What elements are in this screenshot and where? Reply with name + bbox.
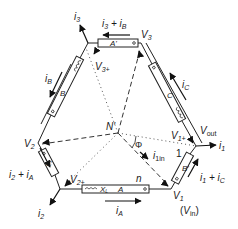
label-i1-plus-iC: i1 + iC (200, 172, 226, 184)
i3-arrow-icon (80, 25, 88, 43)
label-v1plus: V1+ (171, 130, 186, 142)
i1in-arrow-icon (140, 152, 148, 159)
label-vout: Vout (200, 125, 216, 137)
winding-a-prime (98, 39, 138, 47)
i2-arrow-icon (50, 189, 60, 205)
label-winding-c-right: C (167, 91, 173, 100)
label-turns-1: 1 (176, 148, 182, 159)
label-winding-b-prime: B' (182, 164, 189, 173)
transformer-diagram: i3 i3 + iB V3 A' V3+ iB B iC C N' Φ V1+ … (0, 0, 238, 229)
label-v3: V3 (141, 29, 152, 41)
label-i2-plus-iA: i2 + iA (9, 169, 34, 181)
winding-a (82, 185, 149, 193)
label-winding-c-left: C (46, 159, 52, 168)
label-i1in: i1in (153, 150, 165, 162)
label-v3plus: V3+ (95, 61, 110, 73)
label-v2plus: V2+ (70, 174, 85, 186)
label-i3: i3 (74, 11, 80, 23)
label-iC: iC (182, 79, 190, 91)
label-winding-a-prime: A' (109, 39, 117, 48)
label-i1: i1 (219, 140, 225, 152)
arrows (40, 25, 216, 205)
label-v2: V2 (24, 138, 35, 150)
label-turns-n: n (136, 173, 142, 184)
bottom-branch (60, 185, 171, 193)
label-winding-a: A (117, 185, 123, 194)
label-v1: V1 (173, 190, 184, 202)
winding-b-left (47, 56, 83, 117)
label-winding-b: B (60, 89, 66, 98)
neutral-lines (42, 48, 196, 186)
label-i2: i2 (38, 208, 44, 220)
i1-arrow-icon (196, 145, 216, 146)
label-vin: (Vin) (180, 205, 199, 217)
label-phi: Φ (135, 140, 142, 150)
label-neutral: N' (106, 121, 116, 132)
label-iB: iB (45, 73, 52, 85)
label-i3-plus-iB: i3 + iB (102, 18, 127, 30)
label-iA: iA (116, 205, 123, 217)
